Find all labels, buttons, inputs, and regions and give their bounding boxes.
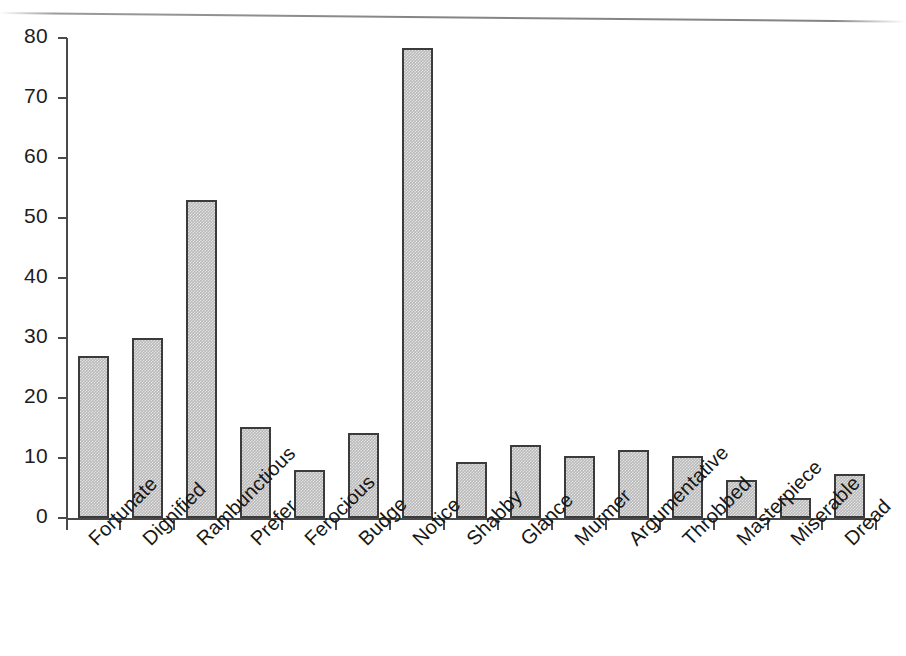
chart-page: 01020304050607080 FortunateDignifiedRamb… [0, 0, 906, 656]
x-tick [66, 519, 68, 530]
y-tick [58, 457, 67, 459]
y-tick [58, 277, 67, 279]
y-tick [58, 217, 67, 219]
bar [402, 48, 433, 518]
y-tick-label: 40 [8, 264, 48, 288]
y-tick-label: 70 [8, 84, 48, 108]
y-tick [58, 337, 67, 339]
y-tick-label: 30 [8, 324, 48, 348]
bar [186, 200, 217, 518]
y-tick [58, 397, 67, 399]
y-tick-label: 10 [8, 444, 48, 468]
bar [78, 356, 109, 518]
y-tick-label: 0 [8, 504, 48, 528]
y-tick-label: 20 [8, 384, 48, 408]
y-tick-label: 80 [8, 24, 48, 48]
y-tick [58, 37, 67, 39]
y-tick-label: 60 [8, 144, 48, 168]
y-tick [58, 157, 67, 159]
y-tick-label: 50 [8, 204, 48, 228]
bar-chart: 01020304050607080 FortunateDignifiedRamb… [0, 0, 906, 656]
y-tick [58, 97, 67, 99]
